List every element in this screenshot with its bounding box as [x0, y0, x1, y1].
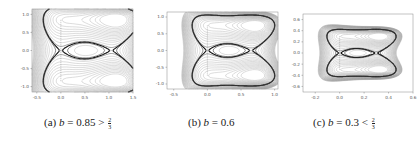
y-tick-label: 0.0 [22, 48, 29, 53]
x-tick-label: 0.0 [336, 95, 343, 100]
x-tick-label: 0.0 [204, 92, 211, 97]
caption-b-label: (b) [188, 116, 204, 128]
caption-a-label: (a) [44, 116, 59, 128]
x-tick-label: -0.5 [170, 92, 179, 97]
x-tick-label: 0.6 [410, 95, 417, 100]
y-tick-label: 0.4 [293, 28, 300, 33]
y-tick-label: -0.2 [292, 62, 301, 67]
x-tick-label: -0.2 [311, 95, 320, 100]
caption-c-label: (c) [313, 116, 328, 128]
x-tick-label: -0.5 [33, 95, 42, 100]
contour-lines [318, 25, 402, 82]
contour-lines [32, 9, 133, 92]
contour-plot-b: -0.50.00.51.01.00.50.0-0.5-1.0 [140, 0, 280, 110]
x-tick-label: 1.0 [106, 95, 113, 100]
x-tick-label: 0.5 [82, 95, 89, 100]
frac-numerator: 2 [108, 117, 111, 124]
caption-c-fraction: 23 [372, 117, 375, 130]
contour-plot-c: -0.20.00.20.40.60.60.40.20.0-0.2-0.4-0.6 [280, 0, 419, 110]
caption-a-fraction: 23 [108, 117, 111, 130]
panel-a: -0.50.00.51.01.51.00.50.0-0.5-1.0 [0, 0, 140, 110]
y-tick-label: -0.5 [156, 65, 165, 70]
y-tick-label: 1.0 [157, 14, 164, 19]
x-tick-label: 1.0 [271, 92, 278, 97]
caption-b-relation: = 0.6 [209, 116, 234, 128]
y-tick-label: 1.0 [22, 12, 29, 17]
contour-plot-a: -0.50.00.51.01.51.00.50.0-0.5-1.0 [0, 0, 140, 110]
y-tick-label: 0.5 [22, 30, 29, 35]
y-tick-label: -0.6 [292, 84, 301, 89]
caption-a-relation: = 0.85 > [64, 116, 107, 128]
panel-b: -0.50.00.51.01.00.50.0-0.5-1.0 [140, 0, 280, 110]
y-tick-label: -0.5 [21, 66, 30, 71]
x-tick-label: 0.4 [385, 95, 392, 100]
y-tick-label: 0.2 [293, 39, 300, 44]
caption-c: (c) b = 0.3 < 23 [313, 116, 375, 130]
x-tick-label: 0.5 [238, 92, 245, 97]
y-tick-label: 0.6 [293, 17, 300, 22]
y-tick-label: 0.5 [157, 31, 164, 36]
x-tick-label: 1.5 [130, 95, 137, 100]
frac-denominator: 3 [108, 124, 111, 130]
y-tick-label: 0.0 [157, 48, 164, 53]
x-tick-label: 0.2 [361, 95, 368, 100]
y-tick-label: -1.0 [156, 81, 165, 86]
y-tick-label: -1.0 [21, 84, 30, 89]
caption-a: (a) b = 0.85 > 23 [44, 116, 111, 130]
panel-c: -0.20.00.20.40.60.60.40.20.0-0.2-0.4-0.6 [280, 0, 419, 110]
y-tick-label: 0.0 [293, 50, 300, 55]
x-tick-label: 0.0 [58, 95, 65, 100]
caption-c-relation: = 0.3 < [333, 116, 370, 128]
caption-b: (b) b = 0.6 [188, 116, 235, 128]
plot-frame [303, 14, 413, 92]
frac-numerator: 2 [372, 117, 375, 124]
contour-lines [182, 12, 278, 89]
frac-denominator: 3 [372, 124, 375, 130]
y-tick-label: -0.4 [292, 73, 301, 78]
